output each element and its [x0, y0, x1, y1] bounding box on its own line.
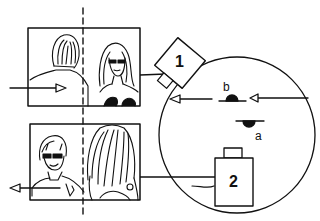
camera-2-label: 2	[229, 174, 238, 190]
actor-a-label: a	[255, 130, 262, 142]
frame-camera-1	[28, 28, 140, 106]
actor-b-label: b	[223, 81, 230, 93]
camera-diagram: 1 2 b a	[0, 0, 320, 221]
camera-1-label: 1	[175, 54, 184, 70]
diagram-canvas	[0, 0, 320, 221]
